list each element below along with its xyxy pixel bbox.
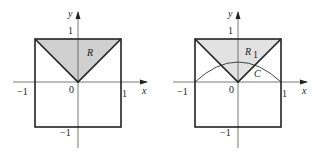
right-figure: y x 1 −1 −1 1 0 R 1 C <box>173 8 307 148</box>
tick-y-neg: −1 <box>60 127 71 138</box>
tick-y-pos: 1 <box>228 25 233 36</box>
region-subscript: 1 <box>253 49 258 60</box>
tick-y-neg: −1 <box>220 127 231 138</box>
region-label: R <box>244 46 251 57</box>
tick-x-pos: 1 <box>282 88 287 99</box>
x-axis-label: x <box>301 85 307 96</box>
diagram-canvas: y x 1 −1 −1 1 0 R y x 1 −1 −1 1 0 R 1 C <box>0 0 320 157</box>
tick-origin: 0 <box>229 84 234 95</box>
y-axis-label: y <box>227 8 233 19</box>
x-axis-label: x <box>141 85 147 96</box>
tick-origin: 0 <box>69 84 74 95</box>
left-figure: y x 1 −1 −1 1 0 R <box>13 8 147 148</box>
y-axis-label: y <box>67 8 73 19</box>
tick-y-pos: 1 <box>68 25 73 36</box>
tick-x-pos: 1 <box>122 88 127 99</box>
tick-x-neg: −1 <box>17 86 28 97</box>
tick-x-neg: −1 <box>177 86 188 97</box>
curve-label: C <box>254 68 261 79</box>
region-label: R <box>86 47 93 58</box>
